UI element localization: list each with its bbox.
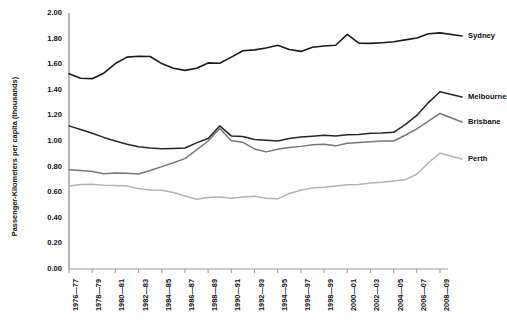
data-series-lines [69, 33, 440, 199]
chart-container: Passenger-Kilometers per capita (thousan… [0, 0, 507, 324]
series-leader-lines [440, 33, 462, 159]
axis-ticks [69, 269, 440, 273]
plot-area [0, 0, 507, 324]
